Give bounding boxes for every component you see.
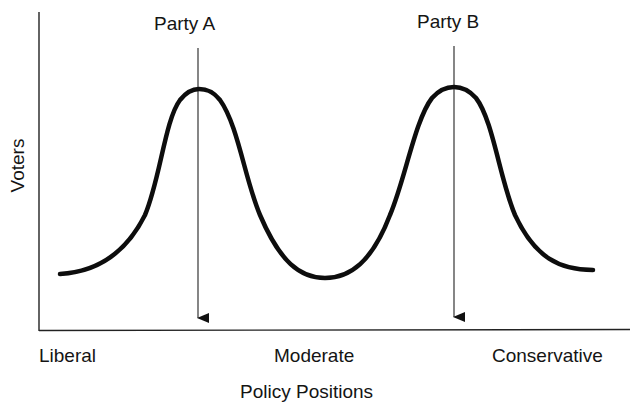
x-tick-liberal: Liberal	[39, 346, 96, 365]
party-b-label: Party B	[417, 12, 479, 31]
x-tick-conservative: Conservative	[492, 346, 603, 365]
party-a-label: Party A	[154, 14, 215, 33]
x-axis-line	[39, 330, 630, 331]
x-axis-label: Policy Positions	[240, 382, 373, 401]
y-axis-label: Voters	[8, 131, 27, 201]
x-tick-moderate: Moderate	[274, 346, 354, 365]
voter-distribution-curve	[60, 87, 593, 278]
